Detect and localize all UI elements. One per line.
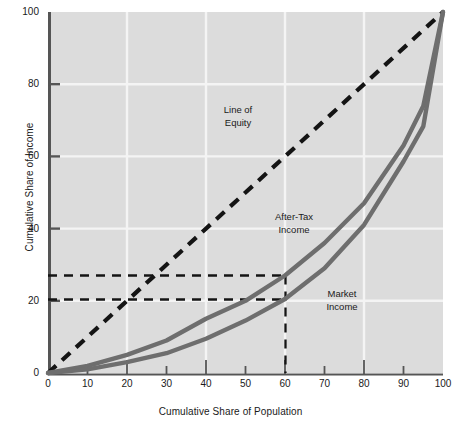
x-tick-label-0: 0 [33, 378, 63, 389]
lorenz-curve-chart [0, 0, 461, 429]
y-tick-label-60: 60 [13, 150, 39, 161]
annotation-after-tax-income: After-Tax Income [258, 211, 330, 236]
y-tick-label-80: 80 [13, 78, 39, 89]
y-tick-label-0: 0 [13, 367, 39, 378]
x-tick-label-70: 70 [310, 378, 340, 389]
x-tick-label-80: 80 [349, 378, 379, 389]
x-tick-label-20: 20 [112, 378, 142, 389]
x-tick-label-30: 30 [152, 378, 182, 389]
x-tick-label-50: 50 [231, 378, 261, 389]
annotation-line-of-equity: Line of Equity [206, 104, 270, 129]
y-tick-label-20: 20 [13, 295, 39, 306]
x-tick-label-60: 60 [270, 378, 300, 389]
x-tick-label-100: 100 [428, 378, 458, 389]
x-tick-label-90: 90 [389, 378, 419, 389]
annotation-market-income: Market Income [311, 288, 373, 313]
y-axis-title-wrapper: Cumulative Share of Income [19, 87, 37, 287]
y-tick-label-100: 100 [7, 6, 39, 17]
y-tick-label-40: 40 [13, 223, 39, 234]
x-tick-label-40: 40 [191, 378, 221, 389]
x-axis-title: Cumulative Share of Population [0, 406, 461, 417]
x-tick-label-10: 10 [73, 378, 103, 389]
